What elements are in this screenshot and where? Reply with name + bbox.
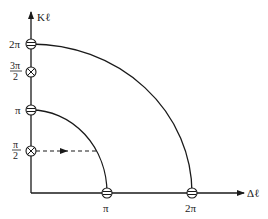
y-axis-label: Kℓ bbox=[37, 11, 50, 23]
y-tick-label-pi2-num: π bbox=[13, 139, 18, 150]
dashed-arrow-head bbox=[60, 148, 68, 154]
y-tick-label-pi2-den: 2 bbox=[13, 150, 18, 161]
y-marker-3pi-2 bbox=[26, 67, 36, 77]
y-marker-pi bbox=[26, 105, 36, 115]
y-tick-label-2pi: 2π bbox=[9, 38, 21, 50]
x-tick-label-pi: π bbox=[103, 202, 109, 214]
y-tick-label-3pi-den: 2 bbox=[13, 71, 18, 82]
y-tick-label-pi: π bbox=[15, 104, 21, 116]
diagram-canvas: Kℓ Δℓ 2π 3π 2 π π 2 π bbox=[0, 0, 268, 219]
x-marker-pi bbox=[102, 188, 112, 198]
y-tick-label-3pi-num: 3π bbox=[10, 60, 20, 71]
x-axis-label: Δℓ bbox=[247, 187, 259, 199]
y-marker-2pi bbox=[26, 39, 36, 49]
outer-arc bbox=[31, 44, 192, 193]
x-tick-label-2pi: 2π bbox=[185, 202, 197, 214]
y-marker-pi-2 bbox=[26, 146, 36, 156]
x-marker-2pi bbox=[187, 188, 197, 198]
